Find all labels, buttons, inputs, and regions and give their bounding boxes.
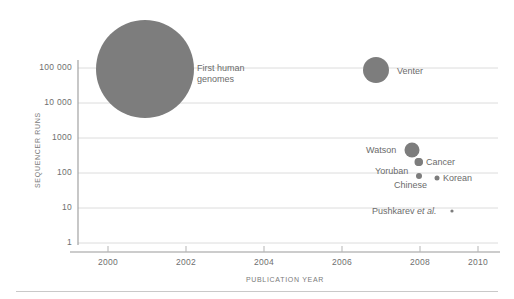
xtick-label-2006: 2006 xyxy=(317,258,367,267)
bubble-watson[interactable] xyxy=(405,143,420,158)
point-label-pushkarev-etal: et al. xyxy=(417,206,437,216)
point-label-cancer: Cancer xyxy=(426,157,455,168)
point-label-venter: Venter xyxy=(397,66,423,77)
bubble-chinese[interactable] xyxy=(416,173,422,179)
xtick-label-2000: 2000 xyxy=(83,258,133,267)
bubble-yoruban[interactable] xyxy=(415,158,423,166)
bubble-first-human-genomes[interactable] xyxy=(96,20,194,118)
xtick-label-2008: 2008 xyxy=(395,258,445,267)
xtick-label-2004: 2004 xyxy=(239,258,289,267)
bubble-korean[interactable] xyxy=(435,176,440,181)
point-label-watson: Watson xyxy=(366,145,396,156)
point-label-first-human-genomes: First human genomes xyxy=(197,63,245,86)
point-label-line-1: First human xyxy=(197,63,245,74)
point-label-korean: Korean xyxy=(443,173,472,184)
bubble-pushkarev[interactable] xyxy=(450,209,453,212)
bubble-venter[interactable] xyxy=(363,57,389,83)
ytick-label-10000: 10 000 xyxy=(18,98,72,107)
point-label-pushkarev-name: Pushkarev xyxy=(372,206,417,216)
point-label-pushkarev: Pushkarev et al. xyxy=(372,206,437,217)
point-label-chinese: Chinese xyxy=(394,180,427,191)
figure-bottom-rule xyxy=(16,291,498,292)
point-label-yoruban: Yoruban xyxy=(375,166,408,177)
ytick-label-100000: 100 000 xyxy=(18,63,72,72)
xtick-label-2010: 2010 xyxy=(453,258,503,267)
ytick-label-100: 100 xyxy=(18,168,72,177)
ytick-label-1000: 1000 xyxy=(18,133,72,142)
y-axis-title: SEQUENCER RUNS xyxy=(34,112,41,188)
chart-figure: 100 000 10 000 1000 100 10 1 SEQUENCER R… xyxy=(0,0,514,299)
chart-plot-area xyxy=(0,0,514,299)
point-label-line-2: genomes xyxy=(197,74,245,85)
x-axis-title: PUBLICATION YEAR xyxy=(205,276,365,283)
ytick-label-10: 10 xyxy=(18,203,72,212)
xtick-label-2002: 2002 xyxy=(161,258,211,267)
ytick-label-1: 1 xyxy=(18,238,72,247)
